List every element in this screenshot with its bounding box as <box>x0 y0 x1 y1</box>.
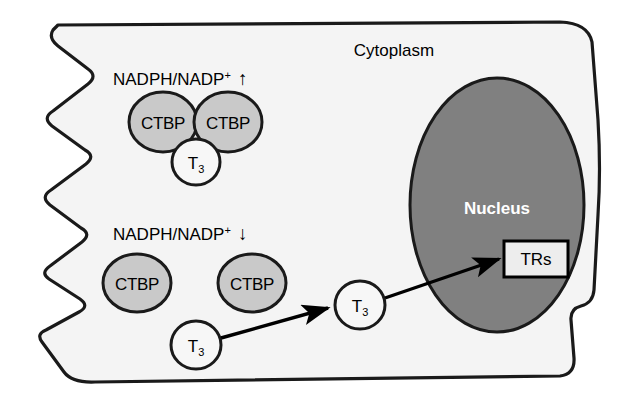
ratio-base-low: NADPH/NADP <box>113 225 224 244</box>
cell-diagram: Cytoplasm Nucleus TRs NADPH/NADP+↑ CTBP … <box>0 0 639 411</box>
diagram-canvas: Cytoplasm Nucleus TRs NADPH/NADP+↑ CTBP … <box>0 0 639 411</box>
ctbp-bottom-left-label: CTBP <box>115 275 159 294</box>
cytoplasm-label: Cytoplasm <box>354 41 434 60</box>
trs-label: TRs <box>520 250 551 269</box>
ratio-base-high: NADPH/NADP <box>113 70 224 89</box>
t3-migrating: T3 <box>335 281 385 329</box>
ratio-superscript-low: + <box>224 224 230 236</box>
t3-free-base: T <box>188 337 198 356</box>
t3-free-sub: 3 <box>198 346 204 358</box>
t3-top-base: T <box>188 154 198 173</box>
ratio-up-arrow-icon: ↑ <box>238 68 248 89</box>
ctbp-bottom-right-label: CTBP <box>230 275 274 294</box>
trs-box: TRs <box>504 241 568 277</box>
t3-migrating-base: T <box>352 297 362 316</box>
ratio-superscript-high: + <box>224 69 230 81</box>
ctbp-top-left-label: CTBP <box>141 114 185 133</box>
ctbp-top-right-label: CTBP <box>206 114 250 133</box>
ratio-down-arrow-icon: ↓ <box>238 223 248 244</box>
nucleus-label: Nucleus <box>464 199 530 218</box>
nucleus: Nucleus <box>410 78 584 332</box>
t3-migrating-sub: 3 <box>362 306 368 318</box>
t3-top-sub: 3 <box>198 163 204 175</box>
